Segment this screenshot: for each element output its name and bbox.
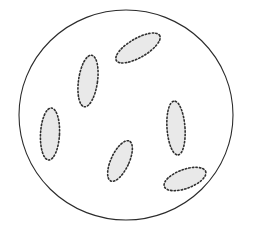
figure-root: Circular field containing six dotted-out… bbox=[0, 0, 254, 234]
diagram-canvas: Circular field containing six dotted-out… bbox=[0, 0, 254, 234]
